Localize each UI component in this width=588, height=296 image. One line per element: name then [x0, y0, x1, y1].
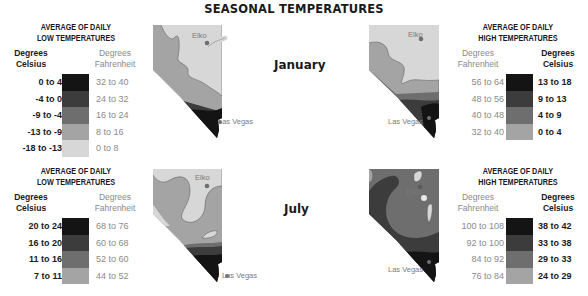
- color-swatch: [62, 268, 89, 285]
- page-title: SEASONAL TEMPERATURES: [0, 2, 588, 16]
- legend-row: 76 to 84 24 to 29: [448, 268, 588, 285]
- color-swatch: [62, 218, 89, 235]
- legend-july-low: AVERAGE OF DAILY LOW TEMPERATURES Degree…: [6, 166, 146, 284]
- color-swatch: [506, 107, 533, 124]
- legend-rows: 0 to 4 32 to 40 -4 to 0 24 to 32 -9 to -…: [6, 74, 146, 157]
- legend-row: 7 to 11 44 to 52: [6, 268, 146, 285]
- city-label-elko: Elko: [192, 31, 207, 40]
- color-swatch: [506, 124, 533, 141]
- legend-january-low: AVERAGE OF DAILY LOW TEMPERATURES Degree…: [6, 22, 146, 157]
- legend-title-line1: AVERAGE OF DAILY: [17, 22, 136, 33]
- legend-row: 92 to 100 33 to 38: [448, 235, 588, 252]
- legend-july-high: AVERAGE OF DAILY HIGH TEMPERATURES Degre…: [448, 166, 588, 284]
- legend-title-line1: AVERAGE OF DAILY: [459, 22, 578, 33]
- color-swatch: [62, 107, 89, 124]
- month-label-january: January: [274, 58, 326, 72]
- legend-row: -18 to -13 0 to 8: [6, 140, 146, 157]
- city-label-las-vegas: Las Vegas: [222, 271, 257, 280]
- color-swatch: [62, 124, 89, 141]
- legend-rows: 100 to 108 38 to 42 92 to 100 33 to 38 8…: [448, 218, 588, 284]
- legend-row: 16 to 20 60 to 68: [6, 235, 146, 252]
- legend-rows: 56 to 64 13 to 18 48 to 56 9 to 13 40 to…: [448, 74, 588, 140]
- fahrenheit-header: Degrees: [448, 192, 508, 203]
- legend-title-line2: LOW TEMPERATURES: [17, 33, 136, 44]
- color-swatch: [506, 251, 533, 268]
- color-swatch: [62, 74, 89, 91]
- celsius-header: Degrees: [530, 192, 586, 203]
- color-swatch: [62, 91, 89, 108]
- color-swatch: [506, 235, 533, 252]
- city-label-las-vegas: Las Vegas: [218, 117, 253, 126]
- legend-row: 48 to 56 9 to 13: [448, 91, 588, 108]
- city-label-elko: Elko: [408, 30, 423, 39]
- city-label-las-vegas: Las Vegas: [388, 117, 423, 126]
- legend-row: 56 to 64 13 to 18: [448, 74, 588, 91]
- legend-row: -4 to 0 24 to 32: [6, 91, 146, 108]
- las-vegas-marker: [427, 116, 431, 120]
- celsius-header: Degrees: [530, 48, 586, 59]
- legend-row: 100 to 108 38 to 42: [448, 218, 588, 235]
- color-swatch: [62, 140, 89, 157]
- legend-title-line1: AVERAGE OF DAILY: [459, 166, 578, 177]
- city-label-las-vegas: Las Vegas: [388, 265, 423, 274]
- map-july-low: Elko Las Vegas: [150, 166, 260, 284]
- legend-title-line2: LOW TEMPERATURES: [17, 177, 136, 188]
- celsius-header: Degrees: [6, 48, 56, 59]
- legend-row: -13 to -9 8 to 16: [6, 124, 146, 141]
- legend-row: 11 to 16 52 to 60: [6, 251, 146, 268]
- map-january-high: Elko Las Vegas: [366, 22, 446, 140]
- color-swatch: [506, 91, 533, 108]
- fahrenheit-header: Degrees: [90, 192, 140, 203]
- legend-title-line2: HIGH TEMPERATURES: [459, 33, 578, 44]
- legend-rows: 20 to 24 68 to 76 16 to 20 60 to 68 11 t…: [6, 218, 146, 284]
- legend-january-high: AVERAGE OF DAILY HIGH TEMPERATURES Degre…: [448, 22, 588, 140]
- legend-row: 0 to 4 32 to 40: [6, 74, 146, 91]
- color-swatch: [506, 268, 533, 285]
- fahrenheit-header: Degrees: [90, 48, 140, 59]
- elko-marker: [205, 184, 210, 189]
- color-swatch: [506, 74, 533, 91]
- las-vegas-marker: [427, 260, 431, 264]
- color-swatch: [506, 218, 533, 235]
- legend-title-line2: HIGH TEMPERATURES: [459, 177, 578, 188]
- legend-row: 84 to 92 29 to 33: [448, 251, 588, 268]
- legend-row: 20 to 24 68 to 76: [6, 218, 146, 235]
- city-label-elko: Elko: [406, 187, 421, 196]
- celsius-header: Degrees: [6, 192, 56, 203]
- map-july-high: Elko Las Vegas: [366, 166, 446, 284]
- city-label-elko: Elko: [195, 173, 210, 182]
- legend-row: 32 to 40 0 to 4: [448, 124, 588, 141]
- legend-title-line1: AVERAGE OF DAILY: [17, 166, 136, 177]
- elko-marker: [205, 41, 210, 46]
- color-swatch: [62, 251, 89, 268]
- color-swatch: [62, 235, 89, 252]
- map-january-low: Elko Las Vegas: [150, 22, 260, 140]
- fahrenheit-header: Degrees: [448, 48, 508, 59]
- legend-row: 40 to 48 4 to 9: [448, 107, 588, 124]
- legend-row: -9 to -4 16 to 24: [6, 107, 146, 124]
- month-label-july: July: [284, 202, 309, 216]
